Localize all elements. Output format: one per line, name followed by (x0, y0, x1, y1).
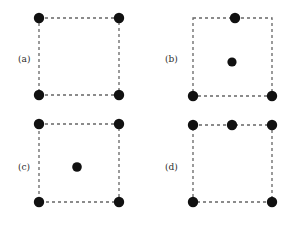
lattice-dot-d-top-center (227, 120, 237, 130)
lattice-dot-c-interior (72, 162, 82, 172)
lattice-dot-a-bottom-right (114, 90, 124, 100)
lattice-dot-a-bottom-left (34, 90, 44, 100)
lattice-dot-d-bottom-left (188, 197, 198, 207)
lattice-dot-a-top-left (34, 13, 44, 23)
lattice-dot-b-interior (227, 57, 236, 66)
lattice-dot-d-top-left (188, 120, 198, 130)
lattice-dot-b-bottom-right (267, 91, 277, 101)
panel-label-a: (a) (18, 54, 30, 64)
lattice-dot-c-bottom-right (114, 197, 124, 207)
lattice-dot-c-top-left (34, 119, 44, 129)
panel-label-c: (c) (18, 162, 30, 172)
lattice-dot-a-top-right (114, 13, 124, 23)
lattice-figure: (a)(b)(c)(d) (0, 0, 295, 227)
figure-container: (a)(b)(c)(d) (0, 0, 295, 227)
lattice-dot-d-bottom-right (267, 197, 277, 207)
lattice-dot-c-top-right (114, 119, 124, 129)
lattice-dot-b-bottom-left (188, 91, 198, 101)
lattice-dot-b-top-center (230, 13, 240, 23)
lattice-dot-c-bottom-left (34, 197, 44, 207)
lattice-dot-d-top-right (267, 120, 277, 130)
panel-label-b: (b) (165, 54, 178, 64)
figure-background (0, 0, 295, 227)
panel-label-d: (d) (165, 162, 178, 172)
